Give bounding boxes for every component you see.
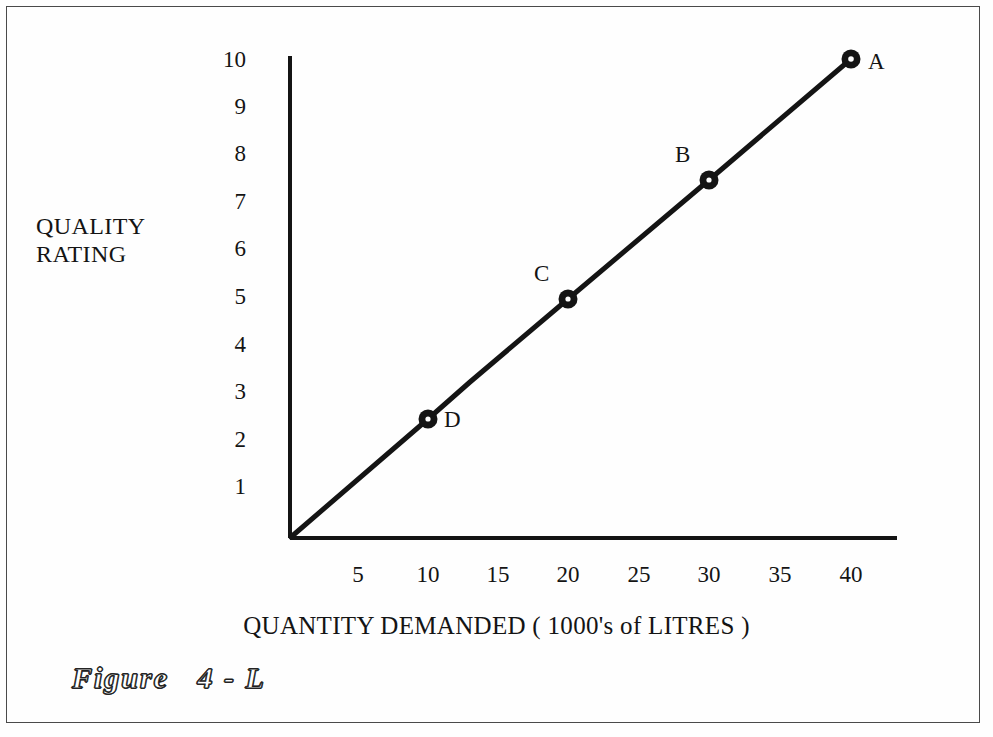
point-label-d: D bbox=[444, 408, 461, 431]
point-label-a: A bbox=[868, 50, 885, 73]
y-tick-label-6: 6 bbox=[204, 237, 246, 260]
x-tick-label-40: 40 bbox=[826, 563, 876, 586]
x-tick-label-25: 25 bbox=[614, 563, 664, 586]
y-tick-label-8: 8 bbox=[204, 142, 246, 165]
figure-container: 10 9 8 7 6 5 4 3 2 1 5 10 15 20 25 30 35… bbox=[0, 0, 993, 737]
x-tick-label-10: 10 bbox=[403, 563, 453, 586]
y-tick-label-1: 1 bbox=[204, 475, 246, 498]
x-axis-title: QUANTITY DEMANDED ( 1000's of LITRES ) bbox=[0, 612, 993, 640]
y-tick-label-7: 7 bbox=[204, 190, 246, 213]
x-tick-label-5: 5 bbox=[333, 563, 383, 586]
x-tick-label-20: 20 bbox=[543, 563, 593, 586]
y-tick-label-4: 4 bbox=[204, 333, 246, 356]
x-tick-label-15: 15 bbox=[473, 563, 523, 586]
y-tick-label-9: 9 bbox=[204, 95, 246, 118]
point-label-b: B bbox=[675, 143, 690, 166]
x-tick-label-35: 35 bbox=[755, 563, 805, 586]
y-tick-label-2: 2 bbox=[204, 428, 246, 451]
y-tick-label-3: 3 bbox=[204, 380, 246, 403]
x-tick-label-30: 30 bbox=[684, 563, 734, 586]
y-tick-label-5: 5 bbox=[204, 285, 246, 308]
point-label-c: C bbox=[534, 262, 549, 285]
y-axis-title: QUALITY RATING bbox=[36, 212, 145, 269]
figure-caption: Figure 4 - L bbox=[72, 661, 266, 695]
y-tick-label-10: 10 bbox=[204, 48, 246, 71]
